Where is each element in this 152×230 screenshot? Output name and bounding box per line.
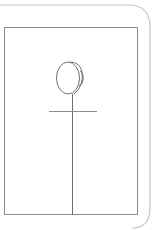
diagram-canvas xyxy=(0,0,152,230)
oval-sign xyxy=(57,62,80,94)
frame xyxy=(5,28,138,215)
diagram-svg xyxy=(0,0,152,230)
outer-panel xyxy=(0,5,150,228)
